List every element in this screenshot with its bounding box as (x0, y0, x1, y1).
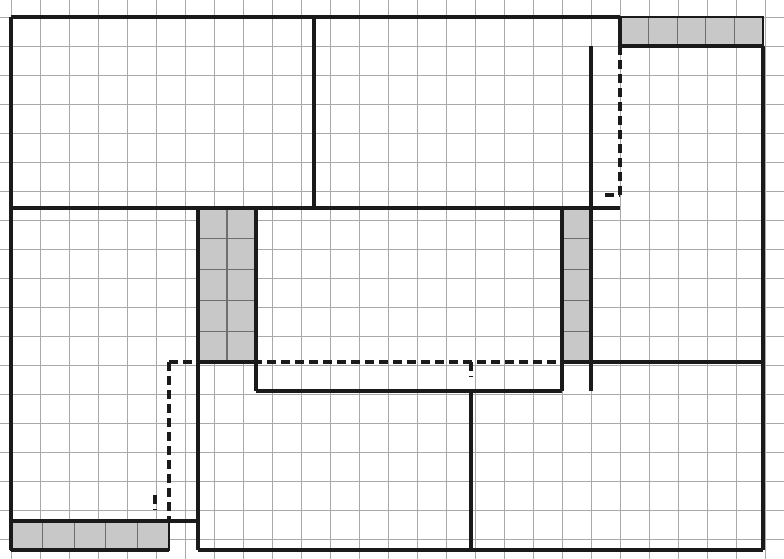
canvas-background (0, 0, 784, 559)
floor-plan-diagram (0, 0, 784, 559)
bottom-left-shaded-strip (11, 521, 169, 550)
right-center-shaded-column (562, 208, 591, 362)
top-right-shaded-strip (620, 17, 763, 46)
plan-canvas (0, 0, 784, 559)
